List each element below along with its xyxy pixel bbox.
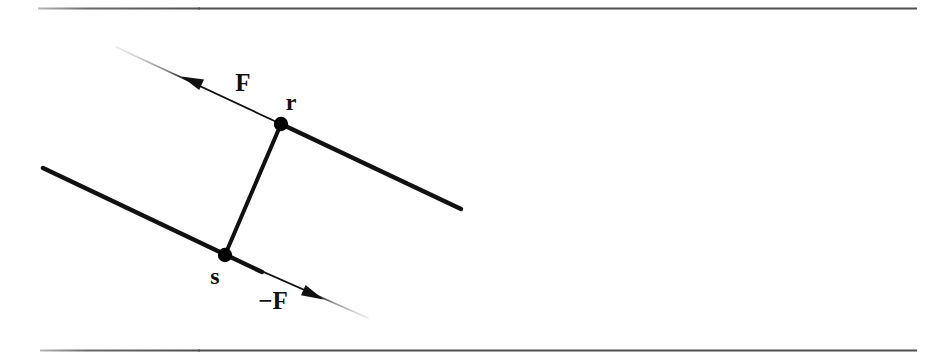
- rs-connector: [225, 124, 281, 255]
- point-s-dot: [218, 248, 232, 262]
- point-r-dot: [274, 117, 288, 131]
- label-force-F: F: [235, 69, 250, 97]
- force-vector-F: [116, 47, 281, 124]
- label-point-s: s: [210, 263, 219, 290]
- line-through-r: [279, 123, 461, 209]
- label-force-minus-F: −F: [258, 287, 288, 315]
- label-point-r: r: [286, 89, 297, 116]
- arrowhead-F: [182, 77, 205, 91]
- figure-canvas: F r s −F: [0, 0, 949, 356]
- arrowhead-minus-F: [301, 285, 324, 300]
- force-pair-diagram: [0, 0, 949, 356]
